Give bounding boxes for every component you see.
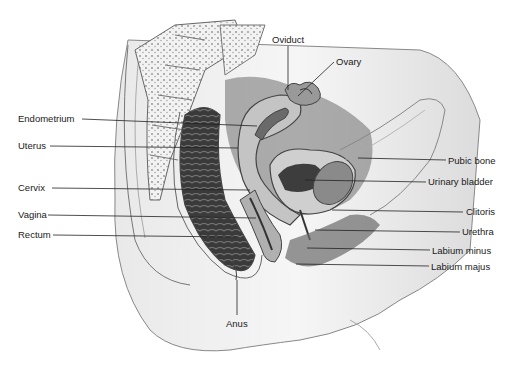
label-endometrium: Endometrium: [18, 113, 75, 124]
label-pubic-bone: Pubic bone: [448, 155, 496, 166]
label-ovary: Ovary: [336, 56, 361, 67]
label-vagina: Vagina: [18, 209, 47, 220]
label-cervix: Cervix: [18, 182, 45, 193]
label-oviduct: Oviduct: [272, 34, 304, 45]
label-urethra: Urethra: [462, 226, 494, 237]
label-labium-minus: Labium minus: [432, 245, 491, 256]
anatomy-diagram: Endometrium Uterus Cervix Vagina Rectum …: [0, 0, 512, 368]
label-urinary-bladder: Urinary bladder: [428, 176, 493, 187]
label-uterus: Uterus: [18, 140, 46, 151]
label-labium-majus: Labium majus: [431, 261, 490, 272]
label-anus: Anus: [226, 318, 248, 329]
label-clitoris: Clitoris: [466, 206, 495, 217]
label-rectum: Rectum: [18, 229, 51, 240]
